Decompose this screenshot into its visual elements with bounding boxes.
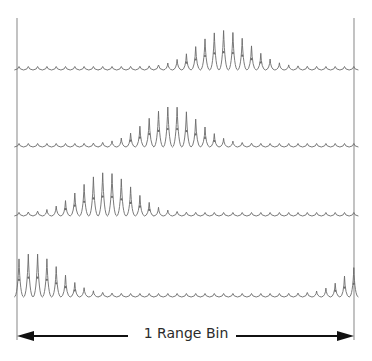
pulse-traces <box>14 31 358 298</box>
range-bin-arrow <box>17 331 354 341</box>
pulse-train-row-4 <box>14 254 358 297</box>
range-bin-diagram <box>0 0 372 361</box>
arrowhead-left-icon <box>17 331 34 341</box>
pulse-train-row-2 <box>14 107 358 147</box>
pulse-train-row-1 <box>14 31 358 71</box>
arrowhead-right-icon <box>337 331 354 341</box>
